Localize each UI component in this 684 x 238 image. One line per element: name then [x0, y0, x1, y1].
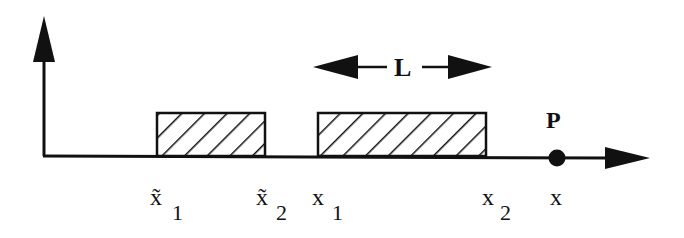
tick-label-x-1: x — [312, 184, 324, 210]
tick-labels: x̃ 1 x̃ 2 x 1 x 2 x — [150, 184, 562, 225]
vertical-axis-arrow-icon — [33, 16, 55, 62]
tick-label-x-tilde-2: x̃ — [256, 184, 268, 210]
hatched-interval — [318, 113, 486, 156]
tick-sub-x-1: 1 — [332, 200, 343, 225]
vertical-axis — [33, 16, 55, 156]
tick-sub-x-tilde-1: 1 — [172, 200, 183, 225]
hatched-interval-tilde — [157, 113, 265, 156]
point-position-label: x — [550, 184, 562, 210]
tick-label-x-tilde-1: x̃ — [150, 184, 162, 210]
length-label: L — [394, 53, 411, 82]
tick-label-x-2: x — [482, 184, 494, 210]
point-p: P — [546, 107, 566, 167]
tick-sub-x-tilde-2: 2 — [276, 200, 287, 225]
horizontal-axis-arrow-icon — [605, 147, 650, 169]
point-dot-icon — [549, 150, 566, 167]
point-label: P — [546, 107, 561, 133]
length-indicator: L — [313, 53, 492, 82]
right-arrow-icon — [448, 55, 492, 79]
left-arrow-icon — [313, 55, 358, 79]
tick-sub-x-2: 2 — [500, 200, 511, 225]
diagram-canvas: L P x̃ 1 x̃ 2 x 1 x 2 x — [0, 0, 684, 238]
